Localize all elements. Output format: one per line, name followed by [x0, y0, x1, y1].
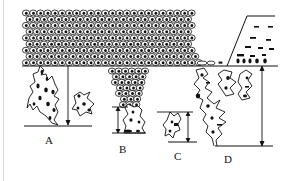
- panel-label-a: A: [45, 134, 53, 146]
- panel-c-invasion: [163, 112, 181, 138]
- epithelial-cell-layer: [22, 10, 202, 66]
- panel-a-invasion: [27, 66, 94, 125]
- cell-funnel-b: [108, 68, 148, 108]
- trapezoid-nuclei: [236, 26, 274, 63]
- panel-b-invasion: [123, 104, 145, 133]
- panel-label-c: C: [174, 150, 181, 162]
- panel-label-d: D: [224, 153, 232, 165]
- panel-d-invasion: [194, 68, 252, 146]
- panel-label-b: B: [119, 143, 126, 155]
- panel-d-depth-arrow: [260, 66, 264, 146]
- panel-a-depth-arrow: [66, 66, 70, 125]
- flattened-cells: [197, 61, 222, 65]
- surface-trapezoid: [227, 16, 275, 66]
- diagram-canvas: [0, 0, 295, 181]
